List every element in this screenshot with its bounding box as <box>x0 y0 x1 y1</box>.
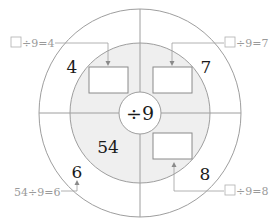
callout-top-left: ÷9=4 <box>22 37 54 50</box>
blank-square-icon <box>11 37 21 47</box>
answer-box-top-left[interactable] <box>89 67 128 93</box>
callout-bottom-right: ÷9=8 <box>236 185 268 198</box>
blank-square-icon <box>225 185 235 195</box>
outer-number-top-right: 7 <box>201 57 212 77</box>
blank-square-icon <box>225 37 235 47</box>
outer-number-bottom-left: 6 <box>72 162 83 182</box>
division-wheel-diagram: ÷9 4 7 6 8 54 ÷9=4 ÷9=7 54÷9=6 ÷9=8 <box>0 0 276 222</box>
callout-bottom-left: 54÷9=6 <box>14 186 60 199</box>
inner-number-bottom-left: 54 <box>97 137 119 157</box>
outer-number-bottom-right: 8 <box>200 164 211 184</box>
outer-number-top-left: 4 <box>67 57 78 77</box>
center-operator: ÷9 <box>126 102 154 124</box>
callout-top-right: ÷9=7 <box>236 37 268 50</box>
answer-box-bottom-right[interactable] <box>153 133 192 159</box>
answer-box-top-right[interactable] <box>153 67 192 93</box>
